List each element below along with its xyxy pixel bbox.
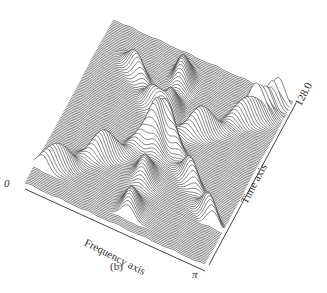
frequency-origin-label: 0 <box>4 177 10 189</box>
frequency-end-label: π <box>192 268 198 280</box>
figure-caption: (b) <box>110 260 123 272</box>
waterfall-figure: 0 Frequency axis π Time axis 128.0 (b) <box>0 0 327 293</box>
waterfall-plot <box>0 0 327 293</box>
